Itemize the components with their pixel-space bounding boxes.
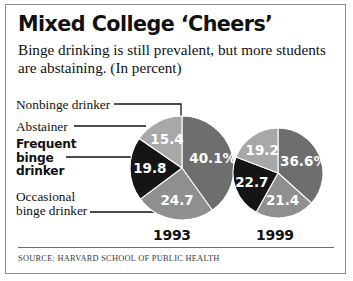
chart-frame: Mixed College ‘Cheers’ Binge drinking is…	[5, 4, 346, 274]
pie-1993-value-nonbinge: 40.1%	[189, 150, 236, 166]
source-divider	[18, 247, 334, 248]
pie-1999-value-frequent: 22.7	[235, 174, 268, 190]
pie-1999: 36.6%21.422.719.2	[233, 128, 327, 218]
pie-1999-value-abstainer: 19.2	[246, 142, 279, 158]
source-line: SOURCE: HARVARD SCHOOL OF PUBLIC HEALTH	[18, 254, 220, 263]
year-label-1993: 1993	[153, 227, 191, 243]
pie-1999-value-nonbinge: 36.6%	[280, 153, 327, 169]
year-label-1999: 1999	[256, 227, 294, 243]
pie-1993: 40.1%24.719.815.4	[130, 116, 237, 220]
pie-1993-value-occasional: 24.7	[160, 192, 193, 208]
pie-1993-value-abstainer: 15.4	[150, 131, 183, 147]
pie-1999-value-occasional: 21.4	[266, 192, 299, 208]
pie-1993-value-frequent: 19.8	[133, 160, 166, 176]
